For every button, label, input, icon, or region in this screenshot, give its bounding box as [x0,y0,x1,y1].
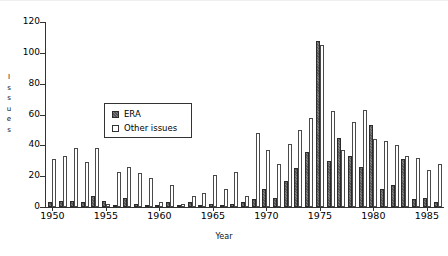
x-axis-line [45,207,444,208]
bar-group [262,22,270,207]
x-axis-tick-label: 1970 [254,210,278,222]
bar-other-issues [138,173,142,207]
bar-group [230,22,238,207]
bar-other-issues [234,172,238,207]
legend-swatch-other [112,125,119,132]
legend-label: Other issues [124,124,177,133]
bar-other-issues [95,148,99,207]
bar-group [241,22,249,207]
bar-group [348,22,356,207]
bar-other-issues [181,204,185,207]
bar-other-issues [52,159,56,207]
legend-swatch-era [112,111,119,118]
x-axis-tick-labels: 19501955196019651970197519801985 [0,210,448,226]
bar-group [316,22,324,207]
y-axis-tick-label: 80 [14,79,40,88]
bar-group [412,22,420,207]
bar-other-issues [405,156,409,207]
x-axis-tick-label: 1975 [308,210,332,222]
x-axis-tick-label: 1965 [201,210,225,222]
bar-group [380,22,388,207]
bar-other-issues [74,148,78,207]
y-axis-tick-label: 120 [14,17,40,26]
y-axis-tick-label: 100 [14,48,40,57]
bar-other-issues [277,164,281,207]
bar-other-issues [224,189,228,208]
y-axis-tick-label: 20 [14,171,40,180]
bar-group [273,22,281,207]
bar-group [91,22,99,207]
bar-other-issues [352,122,356,207]
bar-group [337,22,345,207]
bar-other-issues [298,130,302,207]
bar-other-issues [106,204,110,207]
bar-other-issues [63,156,67,207]
bar-other-issues [127,167,131,207]
bar-group [423,22,431,207]
scan-top-edge [0,0,448,1]
x-axis-title: Year [0,232,448,241]
bar-other-issues [363,110,367,207]
x-axis-tick-label: 1960 [147,210,171,222]
legend-label: ERA [124,110,141,119]
bar-other-issues [159,202,163,207]
bar-group [294,22,302,207]
bar-group [284,22,292,207]
legend-item: Other issues [112,122,191,135]
bar-other-issues [438,164,442,207]
bar-other-issues [192,196,196,207]
bar-group [327,22,335,207]
bar-group [48,22,56,207]
bar-other-issues [117,172,121,207]
x-axis-tick-label: 1950 [40,210,64,222]
bar-other-issues [170,185,174,207]
bar-other-issues [320,45,324,207]
bar-other-issues [309,118,313,207]
bar-group [198,22,206,207]
bar-group [369,22,377,207]
bar-other-issues [202,193,206,207]
bar-other-issues [331,111,335,207]
bar-other-issues [395,145,399,207]
bar-other-issues [373,139,377,207]
chart-legend: ERAOther issues [104,103,192,138]
bar-group [434,22,442,207]
y-axis-tick-label: 40 [14,140,40,149]
bar-other-issues [85,162,89,207]
bar-other-issues [266,150,270,207]
bar-group [209,22,217,207]
bar-other-issues [416,158,420,207]
bar-group [81,22,89,207]
bar-other-issues [245,196,249,207]
bar-group [59,22,67,207]
bar-other-issues [341,150,345,207]
legend-item: ERA [112,108,191,121]
bar-group [391,22,399,207]
x-axis-tick-label: 1985 [415,210,439,222]
bar-other-issues [427,170,431,207]
y-axis-tick-label: 60 [14,110,40,119]
y-axis-tick-mark [40,207,46,208]
bar-other-issues [288,144,292,207]
x-axis-tick-label: 1980 [361,210,385,222]
bar-group [305,22,313,207]
bar-other-issues [213,175,217,207]
bar-group [252,22,260,207]
bar-other-issues [149,178,153,207]
era-issues-bar-chart: Issues 020406080100120 19501955196019651… [0,0,448,256]
bar-other-issues [256,133,260,207]
bar-group [359,22,367,207]
bar-group [70,22,78,207]
bar-group [401,22,409,207]
bar-group [220,22,228,207]
x-axis-tick-label: 1955 [94,210,118,222]
bar-other-issues [384,141,388,207]
